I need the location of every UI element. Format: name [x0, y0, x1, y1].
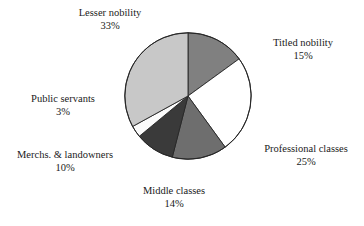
pie-slice-group — [125, 33, 251, 159]
pie-label-name: Titled nobility — [273, 37, 333, 48]
pie-chart-graphic — [124, 32, 252, 160]
pie-label-professional-classes: Professional classes 25% — [248, 142, 364, 169]
pie-label-value: 25% — [248, 155, 364, 168]
pie-label-name: Middle classes — [143, 185, 205, 196]
pie-label-name: Professional classes — [264, 143, 348, 154]
pie-label-lesser-nobility: Lesser nobility 33% — [52, 6, 168, 33]
pie-label-middle-classes: Middle classes 14% — [116, 184, 232, 211]
pie-label-value: 14% — [116, 197, 232, 210]
pie-label-value: 3% — [8, 105, 118, 118]
pie-label-name: Lesser nobility — [79, 7, 142, 18]
pie-label-value: 15% — [248, 49, 358, 62]
pie-label-name: Merchs. & landowners — [17, 149, 113, 160]
pie-label-value: 10% — [2, 161, 128, 174]
pie-label-titled-nobility: Titled nobility 15% — [248, 36, 358, 63]
pie-chart-figure: Lesser nobility 33% Titled nobility 15% … — [0, 0, 364, 226]
pie-label-name: Public servants — [31, 93, 95, 104]
pie-label-merchs-landowners: Merchs. & landowners 10% — [2, 148, 128, 175]
pie-svg — [124, 32, 252, 160]
pie-label-public-servants: Public servants 3% — [8, 92, 118, 119]
pie-label-value: 33% — [52, 19, 168, 32]
